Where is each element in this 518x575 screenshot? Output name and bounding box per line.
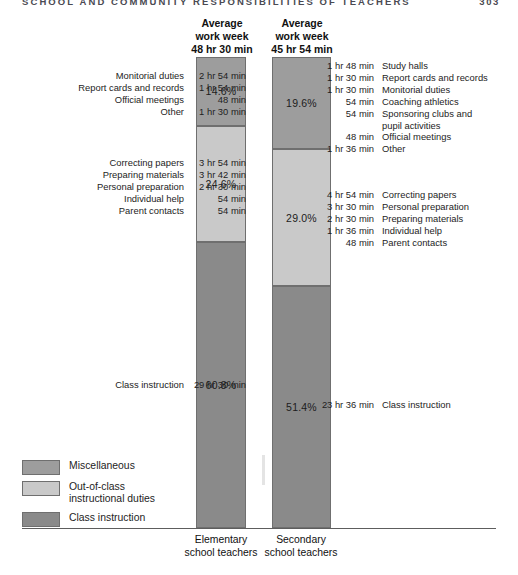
label-activity-time: 1 hr 30 min xyxy=(316,84,382,96)
legend-label-out-of-class: Out-of-class instructional duties xyxy=(69,480,155,506)
label-activity-time: 1 hr 30 min xyxy=(184,106,252,118)
segment-percent-label: 29.0% xyxy=(286,212,317,224)
legend-item-out-of-class[interactable]: Out-of-class instructional duties xyxy=(22,480,155,506)
caption-line-2: work week xyxy=(246,30,358,43)
label-row: 1 hr 48 minStudy halls xyxy=(316,60,488,72)
label-list-elementary-out-of-class: Correcting papers3 hr 54 minPreparing ma… xyxy=(62,157,252,217)
label-activity-time: 1 hr 30 min xyxy=(316,72,382,84)
label-activity-time: 1 hr 48 min xyxy=(316,60,382,72)
label-activity-name: Other xyxy=(382,143,405,155)
label-row: 2 hr 30 minPreparing materials xyxy=(316,213,469,225)
legend-item-miscellaneous[interactable]: Miscellaneous xyxy=(22,459,155,475)
label-row: 3 hr 30 minPersonal preparation xyxy=(316,201,469,213)
label-activity-name: Preparing materials xyxy=(382,213,463,225)
label-row: 1 hr 30 minMonitorial duties xyxy=(316,84,488,96)
label-activity-time: 1 hr 54 min xyxy=(184,82,252,94)
label-activity-name: Preparing materials xyxy=(62,169,184,181)
label-row: 54 minCoaching athletics xyxy=(316,96,488,108)
label-row: 1 hr 36 minOther xyxy=(316,143,488,155)
column-caption-secondary: Average work week 45 hr 54 min xyxy=(246,17,358,57)
label-activity-time: 2 hr 30 min xyxy=(316,213,382,225)
axis-label-line-2: school teachers xyxy=(245,546,357,559)
label-row: 23 hr 36 minClass instruction xyxy=(316,399,451,411)
label-activity-time: 54 min xyxy=(184,193,252,205)
label-activity-name: Personal preparation xyxy=(62,181,184,193)
running-head: SCHOOL AND COMMUNITY RESPONSIBILITIES OF… xyxy=(22,0,442,7)
label-activity-time: 2 hr 30 min xyxy=(184,181,252,193)
label-activity-time: 48 min xyxy=(316,131,382,143)
axis-label-secondary: Secondary school teachers xyxy=(245,533,357,559)
label-activity-name: Other xyxy=(62,106,184,118)
label-list-secondary-class-instruction: 23 hr 36 minClass instruction xyxy=(316,399,451,411)
label-activity-time: 4 hr 54 min xyxy=(316,189,382,201)
label-row: Report cards and records1 hr 54 min xyxy=(62,82,252,94)
label-activity-name: Official meetings xyxy=(62,94,184,106)
label-row: Monitorial duties2 hr 54 min xyxy=(62,70,252,82)
label-row: 4 hr 54 minCorrecting papers xyxy=(316,189,469,201)
segment-percent-label: 19.6% xyxy=(286,97,317,109)
label-activity-name: Parent contacts xyxy=(382,237,447,249)
label-activity-time: 48 min xyxy=(184,94,252,106)
label-row: 1 hr 30 minReport cards and records xyxy=(316,72,488,84)
label-row: 48 minParent contacts xyxy=(316,237,469,249)
label-activity-time: 54 min xyxy=(316,96,382,108)
label-activity-time: 29 hr 30 min xyxy=(184,379,252,391)
label-activity-name: Class instruction xyxy=(382,399,451,411)
label-activity-name: Correcting papers xyxy=(382,189,457,201)
label-activity-name: Coaching athletics xyxy=(382,96,459,108)
label-activity-name: Personal preparation xyxy=(382,201,469,213)
label-activity-time: 54 min xyxy=(184,205,252,217)
label-row: Official meetings48 min xyxy=(62,94,252,106)
label-row: Other1 hr 30 min xyxy=(62,106,252,118)
label-row: Individual help54 min xyxy=(62,193,252,205)
label-activity-name: Sponsoring clubs andpupil activities xyxy=(382,108,472,131)
stacked-bar-elementary: 14.6% 24.6% 60.8% xyxy=(196,57,246,528)
axis-label-line-1: Secondary xyxy=(245,533,357,546)
label-activity-name: Study halls xyxy=(382,60,428,72)
label-row: 1 hr 36 minIndividual help xyxy=(316,225,469,237)
caption-line-1: Average xyxy=(246,17,358,30)
label-activity-name: Correcting papers xyxy=(62,157,184,169)
figure-canvas: SCHOOL AND COMMUNITY RESPONSIBILITIES OF… xyxy=(0,0,518,575)
legend-label-line-2: instructional duties xyxy=(69,493,155,504)
label-activity-name: Individual help xyxy=(382,225,442,237)
label-row: 54 minSponsoring clubs andpupil activiti… xyxy=(316,108,488,131)
segment-percent-label: 51.4% xyxy=(286,401,317,413)
label-row: Correcting papers3 hr 54 min xyxy=(62,157,252,169)
label-activity-time: 1 hr 36 min xyxy=(316,143,382,155)
legend-swatch-class-instruction xyxy=(22,512,60,527)
scan-artifact xyxy=(262,455,265,485)
label-row: Preparing materials3 hr 42 min xyxy=(62,169,252,181)
legend-item-class-instruction[interactable]: Class instruction xyxy=(22,511,155,527)
legend-swatch-miscellaneous xyxy=(22,460,60,475)
axis-baseline xyxy=(22,528,496,529)
label-row: 48 minOfficial meetings xyxy=(316,131,488,143)
label-list-elementary-class-instruction: Class instruction29 hr 30 min xyxy=(62,379,252,391)
label-list-secondary-miscellaneous: 1 hr 48 minStudy halls1 hr 30 minReport … xyxy=(316,60,488,155)
caption-total-secondary: 45 hr 54 min xyxy=(246,43,358,56)
label-activity-name: Official meetings xyxy=(382,131,451,143)
label-row: Personal preparation2 hr 30 min xyxy=(62,181,252,193)
label-activity-time: 48 min xyxy=(316,237,382,249)
label-row: Class instruction29 hr 30 min xyxy=(62,379,252,391)
label-activity-name: Parent contacts xyxy=(62,205,184,217)
label-activity-time: 23 hr 36 min xyxy=(316,399,382,411)
label-activity-name: Monitorial duties xyxy=(62,70,184,82)
page-folio: 303 xyxy=(479,0,500,7)
label-activity-time: 3 hr 54 min xyxy=(184,157,252,169)
label-activity-time: 54 min xyxy=(316,108,382,131)
label-activity-time: 3 hr 30 min xyxy=(316,201,382,213)
label-activity-name: Monitorial duties xyxy=(382,84,450,96)
legend-label-class-instruction: Class instruction xyxy=(69,511,145,524)
label-activity-name: Class instruction xyxy=(62,379,184,391)
legend: Miscellaneous Out-of-class instructional… xyxy=(22,459,155,532)
legend-label-miscellaneous: Miscellaneous xyxy=(69,459,135,472)
label-list-elementary-miscellaneous: Monitorial duties2 hr 54 minReport cards… xyxy=(62,70,252,118)
label-activity-name: Report cards and records xyxy=(62,82,184,94)
label-activity-time: 1 hr 36 min xyxy=(316,225,382,237)
legend-swatch-out-of-class xyxy=(22,481,60,496)
label-activity-name: Individual help xyxy=(62,193,184,205)
label-row: Parent contacts54 min xyxy=(62,205,252,217)
label-list-secondary-out-of-class: 4 hr 54 minCorrecting papers3 hr 30 minP… xyxy=(316,189,469,249)
legend-label-line-1: Out-of-class xyxy=(69,481,125,492)
